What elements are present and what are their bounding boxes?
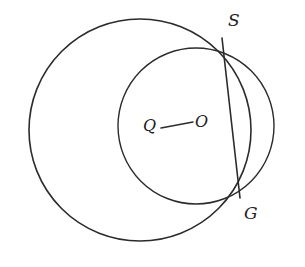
geometry-figure: S G Q O [0,0,305,267]
point-label-G: G [244,205,258,222]
point-label-S: S [228,12,240,29]
center-label-Q: Q [143,118,156,134]
radius-segment-QO [161,122,193,128]
large-circle-Q [29,19,251,241]
chord-segment-SG [222,38,240,198]
center-label-O: O [195,114,208,130]
